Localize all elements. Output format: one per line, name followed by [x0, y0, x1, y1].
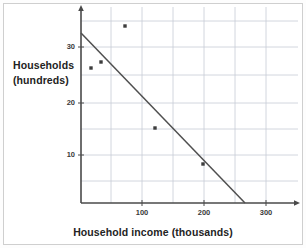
y-axis-title-line1: Households: [13, 58, 74, 73]
data-point: [89, 66, 92, 69]
y-axis-title-line2: (hundreds): [13, 73, 74, 88]
data-point: [123, 24, 126, 27]
x-axis-title: Household income (thousands): [0, 226, 306, 238]
data-point: [201, 162, 204, 165]
x-axis-arrow-icon: [294, 200, 300, 206]
x-tick-label-200: 200: [191, 208, 217, 217]
y-tick-label-20: 20: [53, 98, 75, 107]
data-point: [99, 60, 102, 63]
x-tick-label-100: 100: [129, 208, 155, 217]
x-tick-label-300: 300: [253, 208, 279, 217]
trend-line: [81, 33, 245, 203]
y-tick-label-30: 30: [53, 42, 75, 51]
data-point: [153, 126, 156, 129]
data-points-group: [89, 24, 204, 165]
trend-line-group: [81, 33, 245, 203]
scatter-plot-figure: Households (hundreds) Household income (…: [0, 0, 306, 248]
y-axis-title: Households (hundreds): [13, 58, 74, 88]
gridlines-group: [81, 7, 298, 203]
y-axis-arrow-icon: [78, 5, 84, 11]
y-tick-label-10: 10: [53, 150, 75, 159]
